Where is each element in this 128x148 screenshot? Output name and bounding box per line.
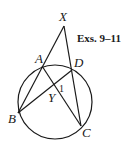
angle-1-label: 1 [59,83,64,94]
exercise-caption: Exs. 9–11 [77,32,121,44]
label-x: X [58,9,68,24]
segment-xb [18,26,64,113]
label-y: Y [48,90,57,105]
label-b: B [8,111,16,126]
label-c: C [82,125,91,140]
label-d: D [73,55,84,70]
geometry-diagram: X A D B C Y 1 Exs. 9–11 [0,0,128,148]
label-a: A [34,51,43,66]
